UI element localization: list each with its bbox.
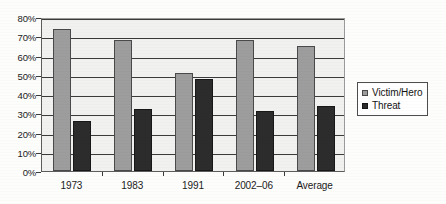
legend-label-victim-hero: Victim/Hero: [372, 87, 422, 98]
y-axis-tick-label: 80%: [2, 13, 36, 24]
legend-swatch-icon-victim-hero: [362, 90, 368, 96]
y-axis-tick-label: 30%: [2, 109, 36, 120]
page-edge-artifact: [70, 199, 270, 203]
y-axis-tick-mark: [36, 95, 41, 96]
y-axis-tick-label: 50%: [2, 70, 36, 81]
y-axis-tick-mark: [36, 172, 41, 173]
chart-legend: Victim/Hero Threat: [357, 82, 428, 116]
x-axis-category-label: 1983: [121, 180, 143, 191]
y-axis-tick-label: 0%: [2, 167, 36, 178]
bar-chart: 0%10%20%30%40%50%60%70%80% 1973198319912…: [0, 0, 446, 204]
y-axis-tick-mark: [36, 134, 41, 135]
y-axis-tick-label: 60%: [2, 51, 36, 62]
x-axis-category-label: 2002–06: [235, 180, 273, 191]
x-axis-tick-mark: [284, 172, 285, 176]
x-axis-category-label: Average: [296, 180, 332, 191]
legend-item-victim-hero: Victim/Hero: [362, 86, 422, 99]
legend-item-threat: Threat: [362, 99, 422, 112]
y-axis-tick-mark: [36, 18, 41, 19]
y-axis-tick-label: 20%: [2, 128, 36, 139]
x-axis-category-label: 1973: [60, 180, 82, 191]
legend-swatch-icon-threat: [362, 103, 368, 109]
y-axis-tick-label: 40%: [2, 90, 36, 101]
x-axis-tick-mark: [223, 172, 224, 176]
y-axis-tick-mark: [36, 57, 41, 58]
x-axis-tick-mark: [102, 172, 103, 176]
y-axis-tick-mark: [36, 114, 41, 115]
x-axis-category-label: 1991: [182, 180, 204, 191]
y-axis-tick-label: 10%: [2, 147, 36, 158]
legend-label-threat: Threat: [372, 100, 400, 111]
y-axis-tick-label: 70%: [2, 32, 36, 43]
y-axis-tick-mark: [36, 153, 41, 154]
y-axis-tick-mark: [36, 76, 41, 77]
x-axis-tick-mark: [163, 172, 164, 176]
y-axis-tick-mark: [36, 37, 41, 38]
